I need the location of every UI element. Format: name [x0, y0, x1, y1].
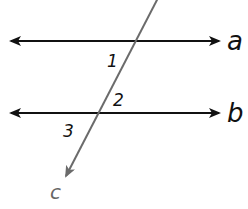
line-b-label: b	[227, 98, 244, 128]
parallel-lines-diagram: a b c 1 2 3	[0, 0, 248, 209]
angle-3-label: 3	[63, 121, 74, 141]
transversal-c-label: c	[50, 180, 61, 204]
angle-2-label: 2	[113, 90, 124, 110]
angle-1-label: 1	[107, 51, 118, 71]
transversal-c	[66, 0, 158, 176]
line-a-label: a	[227, 26, 243, 56]
